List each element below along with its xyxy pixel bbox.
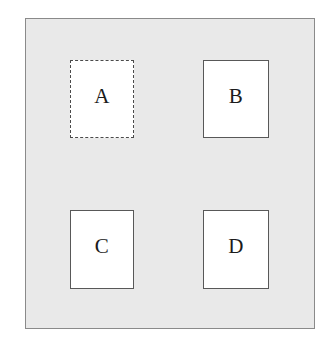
node-box-a[interactable]: A [70,60,134,138]
diagram-canvas: A B C D [25,18,315,329]
node-label-d: D [228,236,244,257]
node-label-c: C [95,236,110,257]
node-label-b: B [229,86,244,107]
node-box-d[interactable]: D [203,210,269,289]
node-label-a: A [94,86,110,107]
node-box-c[interactable]: C [70,210,134,289]
node-box-b[interactable]: B [203,60,269,138]
